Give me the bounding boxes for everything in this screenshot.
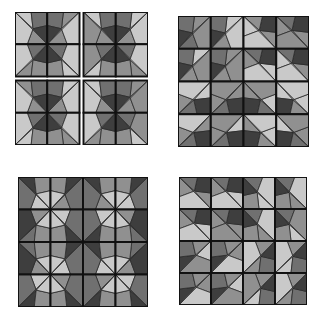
quilt-tile [84,113,116,145]
quilt-tile [116,275,149,308]
quilt-tile [116,210,149,243]
quilt-tile [47,12,79,44]
quilt-tile [47,81,79,113]
quilt-tile [116,177,149,210]
quilt-tile [15,12,47,44]
quilt-tile [51,275,84,308]
panel-top-left-svg [15,12,148,145]
panel-bottom-left-svg [18,177,148,307]
quilt-tile [51,210,84,243]
quilt-tile [211,209,243,241]
quilt-tile [243,209,275,241]
quilt-tile [275,241,307,273]
pattern-panel-bottom-right [179,177,307,305]
quilt-tile [15,81,47,113]
quilt-tile [178,114,211,147]
quilt-tile [211,114,244,147]
quilt-tile [275,209,307,241]
quilt-tile [116,81,148,113]
quilt-tile [244,49,277,82]
quilt-tile [243,177,275,209]
quilt-tile [179,273,211,305]
quilt-tile [275,177,307,209]
quilt-tile [179,241,211,273]
quilt-tile [244,82,277,115]
quilt-tile [83,275,116,308]
pattern-panel-top-right [178,16,309,147]
quilt-tile [211,241,243,273]
pattern-panel-bottom-left [18,177,148,307]
quilt-tile [211,177,243,209]
quilt-tile [178,82,211,115]
quilt-tile [211,273,243,305]
quilt-tile [18,275,51,308]
quilt-tile [83,210,116,243]
quilt-tile [47,44,79,76]
quilt-tile [244,16,277,49]
pattern-panel-top-left [15,12,148,145]
quilt-tile [244,114,277,147]
quilt-tile [276,16,309,49]
quilt-tile [18,177,51,210]
quilt-tile [51,242,84,275]
quilt-tile [211,16,244,49]
quilt-tile [116,44,148,76]
quilt-tile [179,177,211,209]
quilt-tile [276,114,309,147]
quilt-tile [243,273,275,305]
quilt-tile [15,44,47,76]
panel-top-right-svg [178,16,309,147]
quilt-tile [51,177,84,210]
quilt-tile [18,210,51,243]
quilt-tile [83,177,116,210]
quilt-tile [211,82,244,115]
quilt-tile [116,242,149,275]
quilt-tile [179,209,211,241]
quilt-tile [211,49,244,82]
quilt-tile [18,242,51,275]
quilt-tile [243,241,275,273]
quilt-tile [47,113,79,145]
quilt-tile [15,113,47,145]
quilt-tile [178,49,211,82]
quilt-tile [276,49,309,82]
quilt-tile [276,82,309,115]
quilt-tile [116,113,148,145]
quilt-tile [116,12,148,44]
quilt-tile [275,273,307,305]
quilt-tile [84,44,116,76]
quilt-tile [83,242,116,275]
panel-bottom-right-svg [179,177,307,305]
quilt-tile [178,16,211,49]
quilt-tile [84,12,116,44]
quilt-tile [84,81,116,113]
